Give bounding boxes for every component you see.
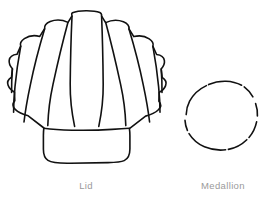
shell-rib-right-4 <box>161 69 162 92</box>
medallion-arc-right-lower <box>249 122 257 138</box>
shell-rib-left-1 <box>48 23 68 126</box>
medallion-arc-upper-left <box>186 86 206 115</box>
shell-rib-left-4 <box>12 69 13 92</box>
shell-rib-left-3 <box>14 46 21 112</box>
lid-caption-label: Lid <box>0 181 172 191</box>
medallion-arc-bottom <box>189 134 226 150</box>
shell-rib-center-right <box>99 16 103 126</box>
shell-rib-center-left <box>70 16 74 126</box>
shell-outline-path <box>8 11 166 163</box>
shell-hinge-base-path <box>44 128 129 130</box>
medallion-arc-bottom-right <box>228 140 246 150</box>
medallion-arc-upper-right <box>244 87 253 97</box>
medallion-arc-right-upper <box>256 104 258 116</box>
shell-rib-right-1 <box>106 23 126 126</box>
medallion-arc-left-lower <box>185 120 187 130</box>
medallion-circle-figure <box>185 81 257 150</box>
medallion-caption-label: Medallion <box>178 181 268 191</box>
pattern-drawing <box>0 0 270 203</box>
drawing-canvas: Lid Medallion <box>0 0 270 203</box>
shell-rib-left-2 <box>24 29 45 122</box>
medallion-arc-upper-top <box>209 81 242 85</box>
shell-rib-right-2 <box>129 29 150 122</box>
lid-shell-figure <box>8 11 166 163</box>
